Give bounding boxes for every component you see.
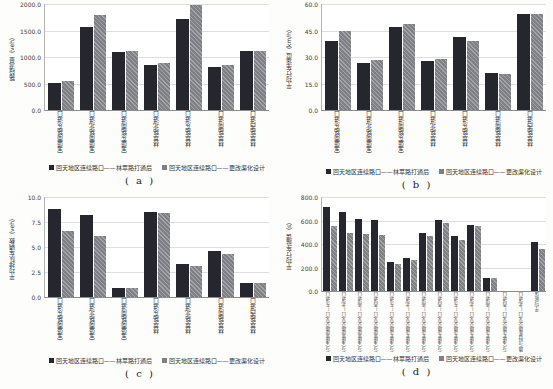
bar-group: [205, 4, 237, 110]
bar-series-2: [254, 283, 266, 297]
legend-swatch-icon: [439, 169, 444, 174]
bar-series-1: [357, 63, 369, 110]
bar-group: [354, 197, 370, 291]
legend-label: 回天地区连续路口——林萃路打通后: [333, 167, 429, 176]
x-axis-label: 林萃路与宝盛东路交叉口—东进口: [391, 292, 396, 352]
x-label-slot: 林萃路南进口: [205, 298, 237, 354]
bar-group: [450, 197, 466, 291]
y-tick-label: 30.0: [305, 54, 318, 61]
x-axis-labels: 宝盛南路东进口宝盛南路北进口宝盛东路南进口林萃路北进口林萃路东进口林萃路南进口林…: [44, 111, 269, 161]
legend-swatch-icon: [162, 165, 167, 170]
legend-item: 回天地区连续路口——林萃路打通后: [49, 356, 152, 365]
legend-item: 回天地区连续路口——林萃路打通后: [326, 167, 429, 176]
chart-legend: 回天地区连续路口——林萃路打通后回天地区连续路口——更改渠化设计: [321, 167, 546, 176]
bar-group: [109, 197, 141, 297]
bar-group: [45, 197, 77, 297]
y-tick-label: 200.0: [301, 264, 318, 271]
bar-series-2: [62, 81, 74, 110]
x-axis-label: 林萃路与宝盛南路交叉口—西进口: [375, 292, 380, 352]
y-tick-label: 7.5: [31, 219, 41, 226]
x-label-slot: 宝盛南路北进口: [353, 111, 385, 165]
bar-series-2: [443, 223, 449, 291]
x-axis-label: 林萃路南进口: [218, 111, 224, 147]
x-axis-label: 宝盛南路北进口: [366, 111, 372, 153]
chart-caption: ( d ): [283, 366, 551, 377]
bars-layer: [45, 4, 269, 110]
bar-series-2: [379, 235, 385, 291]
y-tick-label: 0.0: [31, 294, 41, 301]
x-label-slot: 宝盛东路南进口: [108, 111, 140, 161]
bar-group: [450, 4, 482, 110]
bar-group: [173, 197, 205, 297]
bar-series-1: [176, 19, 188, 110]
x-label-slot: 宝盛南路南进口: [108, 298, 140, 354]
x-label-slot: 林萃路北进口: [173, 298, 205, 354]
legend-item: 回天地区连续路口——更改渠化设计: [162, 163, 265, 172]
x-label-slot: 林萃路东进口: [173, 111, 205, 161]
x-axis-labels: 宝盛南路东进口宝盛南路北进口宝盛东路南进口林萃路北进口林萃路东进口林萃路南进口林…: [321, 111, 546, 165]
plot-area: [321, 4, 546, 111]
bar-series-1: [419, 233, 425, 291]
bar-series-1: [435, 220, 441, 291]
bar-series-1: [517, 14, 529, 110]
x-label-slot: 林萃路与宝盛南路交叉口—东进口: [321, 292, 337, 352]
bar-series-1: [48, 83, 60, 110]
bar-group: [418, 4, 450, 110]
x-label-slot: 林萃路东进口: [140, 298, 172, 354]
bar-series-2: [158, 63, 170, 110]
bar-series-2: [427, 236, 433, 291]
bar-series-2: [190, 266, 202, 297]
bar-group: [141, 197, 173, 297]
bar-group: [466, 197, 482, 291]
legend-swatch-icon: [162, 358, 167, 363]
bar-series-1: [112, 288, 124, 297]
bar-series-2: [411, 260, 417, 291]
x-axis-label: 林萃路东进口: [462, 111, 468, 147]
plot-row: 路段流量（veh） 0.0500.01000.01500.02000.0: [6, 4, 274, 111]
legend-item: 回天地区连续路口——林萃路打通后: [326, 354, 429, 363]
bar-series-2: [539, 249, 545, 291]
bar-series-2: [339, 31, 351, 111]
legend-item: 回天地区连续路口——更改渠化设计: [439, 167, 542, 176]
bar-series-2: [347, 233, 353, 291]
bar-group: [514, 4, 546, 110]
bar-group: [322, 197, 338, 291]
x-axis-label: 宝盛南路东进口: [57, 111, 63, 153]
plot-row: 平均排队车辆数（veh） 0.02.55.07.510.0: [6, 197, 274, 298]
chart-legend: 回天地区连续路口——林萃路打通后回天地区连续路口——更改渠化设计: [44, 163, 269, 172]
x-label-slot: 林萃路与科星路交叉口—北进口: [514, 292, 530, 352]
x-axis-label: 林萃路南进口: [218, 298, 224, 334]
chart-caption: ( a ): [6, 175, 274, 186]
bar-series-2: [467, 41, 479, 110]
bar-series-2: [459, 240, 465, 291]
bar-series-1: [112, 52, 124, 110]
legend-item: 回天地区连续路口——林萃路打通后: [49, 163, 152, 172]
x-label-slot: 林萃路与宝盛东路交叉口—北进口: [401, 292, 417, 352]
bar-series-1: [387, 262, 393, 291]
bar-group: [237, 197, 269, 297]
x-label-slot: 林萃路北进口: [417, 111, 449, 165]
bar-group: [418, 197, 434, 291]
bar-series-1: [467, 225, 473, 291]
chart-caption: ( b ): [283, 179, 551, 190]
x-label-slot: 宝盛南路东进口: [321, 111, 353, 165]
bar-series-2: [403, 24, 415, 110]
x-label-slot: 宝盛南路北进口: [76, 298, 108, 354]
x-axis-label: 林萃路东进口: [185, 111, 191, 147]
bar-group: [77, 197, 109, 297]
chart-c: 平均排队车辆数（veh） 0.02.55.07.510.0 宝盛南路东进口宝盛南…: [6, 197, 274, 379]
y-tick-label: 0.0: [308, 107, 318, 114]
bar-group: [498, 197, 514, 291]
x-axis-label: 宝盛南路与宝盛东路交叉口—北进口: [471, 292, 476, 352]
bar-series-1: [208, 67, 220, 110]
x-label-slot: 林萃路与宝盛东路交叉口—东进口: [385, 292, 401, 352]
plot-area: [44, 4, 269, 111]
y-axis-title: 平均排队车辆数（veh）: [6, 197, 17, 298]
bar-series-1: [371, 220, 377, 291]
plot-area: [44, 197, 269, 298]
y-axis-ticks: 0.02.55.07.510.0: [17, 197, 44, 297]
bars-layer: [322, 197, 546, 291]
y-tick-label: 0.0: [31, 107, 41, 114]
y-axis-title: 平均行车速度（km/h）: [283, 4, 294, 111]
x-axis-label: 林萃路与宝盛南路交叉口—北进口: [343, 292, 348, 352]
